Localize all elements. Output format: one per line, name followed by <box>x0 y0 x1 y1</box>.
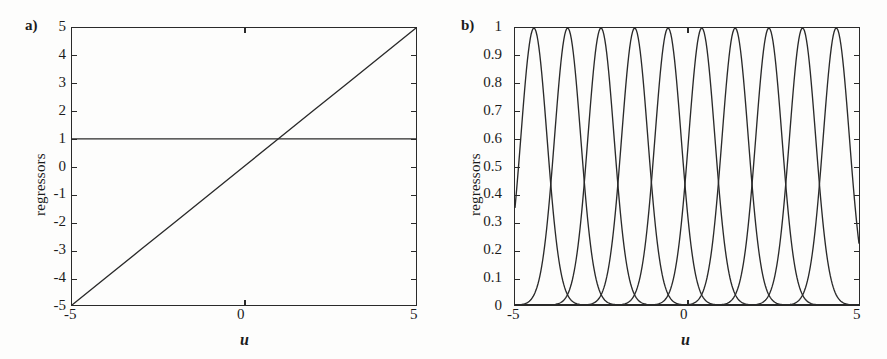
panel-b-y-tick-labels: 10.90.80.70.60.50.40.30.20.10 <box>462 0 502 279</box>
y-tick-mark <box>515 279 520 280</box>
panel-a-y-tick-labels: 543210-1-2-3-4-5 <box>26 0 66 279</box>
y-tick-mark-right <box>854 139 859 140</box>
y-tick-label: 0.6 <box>483 131 502 146</box>
x-tick-label: 5 <box>410 307 418 322</box>
y-tick-mark-right <box>411 279 416 280</box>
x-tick-label: 5 <box>853 307 861 322</box>
panel-a-plot-frame <box>71 27 417 306</box>
y-tick-label: 0.9 <box>483 47 502 62</box>
y-tick-label: 0.4 <box>483 186 502 201</box>
y-tick-label: 5 <box>59 19 67 34</box>
y-tick-mark-right <box>411 223 416 224</box>
y-tick-label: 0.1 <box>483 270 502 285</box>
figure-container: a) regressors u 543210-1-2-3-4-5 -505 b)… <box>0 0 887 359</box>
y-tick-mark-right <box>854 251 859 252</box>
series-line-2 <box>72 28 416 305</box>
y-tick-mark-right <box>411 195 416 196</box>
y-tick-mark <box>72 167 77 168</box>
y-tick-mark-right <box>854 195 859 196</box>
y-tick-label: -2 <box>54 214 67 229</box>
y-tick-mark <box>515 111 520 112</box>
panel-b-plot-frame <box>514 27 860 306</box>
y-tick-label: -3 <box>54 242 67 257</box>
y-tick-mark-right <box>411 55 416 56</box>
y-tick-label: -4 <box>54 270 67 285</box>
y-tick-mark <box>72 83 77 84</box>
panel-b-curves <box>515 28 859 305</box>
y-tick-label: 1 <box>495 19 503 34</box>
y-tick-mark <box>72 223 77 224</box>
y-tick-label: 0.3 <box>483 214 502 229</box>
x-tick-label: -5 <box>507 307 520 322</box>
x-tick-label: -5 <box>64 307 77 322</box>
panel-a-curves <box>72 28 416 305</box>
y-tick-label: 2 <box>59 103 67 118</box>
panel-a: a) regressors u 543210-1-2-3-4-5 -505 <box>0 0 444 359</box>
y-tick-mark-right <box>854 83 859 84</box>
y-tick-mark-right <box>411 83 416 84</box>
y-tick-mark <box>72 195 77 196</box>
y-tick-mark-right <box>854 167 859 168</box>
y-tick-mark <box>515 195 520 196</box>
y-tick-mark <box>72 279 77 280</box>
gaussian-basis-6 <box>515 28 859 305</box>
y-tick-label: 0.7 <box>483 103 502 118</box>
panel-a-x-axis-title: u <box>240 331 249 349</box>
panel-a-x-tick-labels: -505 <box>71 307 417 329</box>
y-tick-label: 3 <box>59 75 67 90</box>
y-tick-label: 4 <box>59 47 67 62</box>
panel-b-x-axis-title: u <box>681 331 690 349</box>
panel-b-x-tick-labels: -505 <box>514 307 860 329</box>
y-tick-mark-right <box>854 223 859 224</box>
x-tick-label: 0 <box>680 307 688 322</box>
y-tick-label: 1 <box>59 131 67 146</box>
y-tick-label: 0 <box>59 159 67 174</box>
y-tick-mark-right <box>411 251 416 252</box>
y-tick-mark <box>515 167 520 168</box>
y-tick-mark-right <box>411 139 416 140</box>
y-tick-mark <box>72 139 77 140</box>
y-tick-mark-right <box>411 111 416 112</box>
y-tick-mark <box>515 139 520 140</box>
y-tick-mark <box>515 251 520 252</box>
y-tick-label: 0.5 <box>483 159 502 174</box>
y-tick-mark-right <box>854 111 859 112</box>
y-tick-mark <box>72 251 77 252</box>
x-tick-label: 0 <box>237 307 245 322</box>
y-tick-label: 0 <box>495 298 503 313</box>
y-tick-mark-right <box>854 279 859 280</box>
y-tick-mark <box>515 55 520 56</box>
y-tick-mark <box>72 111 77 112</box>
y-tick-mark-right <box>411 167 416 168</box>
panel-b: b) regressors u 10.90.80.70.60.50.40.30.… <box>444 0 887 359</box>
y-tick-mark <box>515 223 520 224</box>
y-tick-label: 0.8 <box>483 75 502 90</box>
y-tick-mark <box>515 83 520 84</box>
y-tick-label: 0.2 <box>483 242 502 257</box>
y-tick-mark-right <box>854 55 859 56</box>
y-tick-label: -1 <box>54 186 67 201</box>
y-tick-mark <box>72 55 77 56</box>
